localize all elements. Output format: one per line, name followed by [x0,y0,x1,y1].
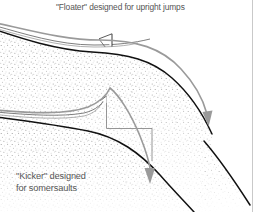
jump-ramp-diagram: "Floater" designed for upright jumps "Ki… [0,0,260,212]
kicker-label: "Kicker" designed for somersaults [16,171,86,194]
page-title: "Floater" designed for upright jumps [56,2,185,13]
right-border-rule [252,0,253,212]
